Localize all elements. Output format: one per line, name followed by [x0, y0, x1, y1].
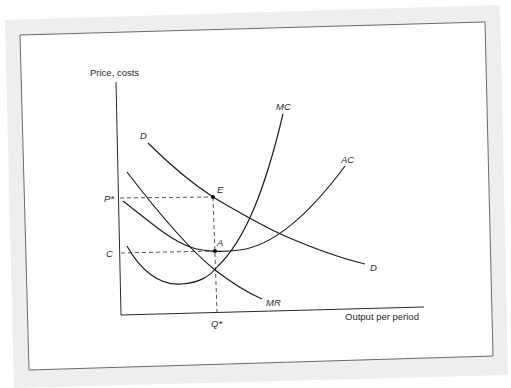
marginal-cost-label: MC — [276, 101, 291, 112]
cost-mark-label: C — [106, 248, 113, 259]
demand-label-start: D — [140, 130, 147, 141]
marginal-revenue-label: MR — [266, 297, 281, 308]
average-cost-label: AC — [340, 154, 354, 165]
point-e-marker — [211, 195, 215, 199]
point-e-label: E — [217, 184, 224, 195]
quantity-mark-label: Q* — [211, 318, 222, 329]
demand-label-end: D — [370, 262, 377, 273]
price-mark-label: P* — [104, 193, 114, 204]
y-axis-label: Price, costs — [90, 67, 139, 78]
point-a-label: A — [216, 237, 223, 248]
x-axis-label: Output per period — [345, 311, 419, 322]
point-a-marker — [213, 249, 217, 253]
monopolistic-competition-diagram: Price, costs Output per period D D MR MC… — [0, 0, 511, 388]
